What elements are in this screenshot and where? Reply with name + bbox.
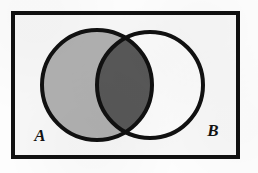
set-a-label: A	[33, 126, 45, 145]
venn-diagram-figure: A B	[0, 0, 258, 173]
venn-diagram-canvas: A B	[0, 0, 258, 173]
set-b-label: B	[206, 121, 218, 140]
